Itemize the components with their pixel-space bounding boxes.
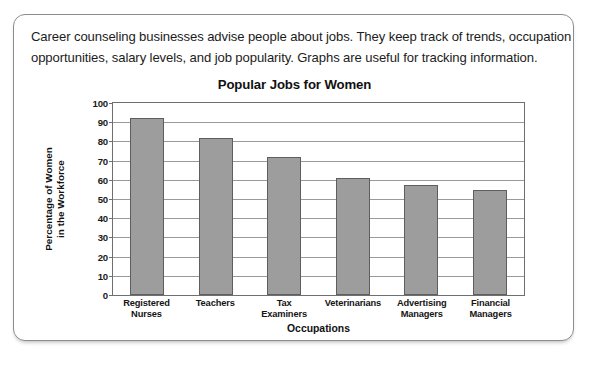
plot-area: 1009080706050403020100 [112, 102, 525, 296]
y-axis-tick-label: 70 [98, 155, 108, 166]
y-axis-tick-label: 0 [103, 290, 108, 301]
y-axis-tick-label: 80 [98, 136, 108, 147]
x-axis-tick-label: Teachers [181, 298, 250, 321]
bar-series [113, 103, 524, 295]
x-axis-tick-label: TaxExaminers [250, 298, 319, 321]
bar [267, 157, 301, 295]
bar-slot [387, 103, 456, 295]
bar-slot [182, 103, 251, 295]
x-axis-tick-label: FinancialManagers [456, 298, 525, 321]
y-axis-tick-label: 60 [98, 174, 108, 185]
y-axis-tick-mark [109, 295, 113, 296]
x-axis-tick-label: AdvertisingManagers [387, 298, 456, 321]
bar [199, 138, 233, 295]
x-axis-tick-label: Veterinarians [318, 298, 387, 321]
y-axis-title-line-1: Percentage of Women [43, 147, 54, 251]
bar [336, 178, 370, 295]
y-axis-tick-label: 10 [98, 270, 108, 281]
bar-chart-figure: Percentage of Women in the Workforce 100… [14, 15, 575, 342]
bar-slot [250, 103, 319, 295]
y-axis-title: Percentage of Women in the Workforce [40, 102, 70, 296]
y-axis-tick-label: 100 [93, 98, 108, 109]
y-axis-tick-label: 20 [98, 251, 108, 262]
bar [473, 190, 507, 295]
bar [404, 185, 438, 295]
y-axis-tick-label: 40 [98, 213, 108, 224]
bar [130, 118, 164, 295]
content-card: Career counseling businesses advise peop… [13, 14, 574, 341]
bar-slot [456, 103, 525, 295]
y-axis-title-line-2: in the Workforce [55, 160, 66, 238]
x-axis-tick-labels: RegisteredNursesTeachersTaxExaminersVete… [112, 298, 525, 321]
bar-slot [319, 103, 388, 295]
y-axis-tick-label: 90 [98, 117, 108, 128]
x-axis-tick-label: RegisteredNurses [112, 298, 181, 321]
y-axis-tick-label: 30 [98, 232, 108, 243]
y-axis-tick-label: 50 [98, 194, 108, 205]
x-axis-title: Occupations [112, 323, 525, 334]
bar-slot [113, 103, 182, 295]
